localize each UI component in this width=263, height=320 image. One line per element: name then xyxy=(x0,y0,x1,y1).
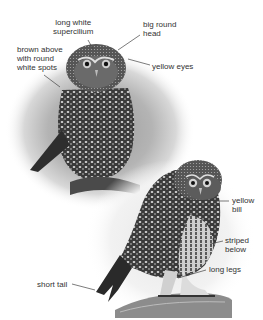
label-upperparts: brown above with round white spots xyxy=(17,45,63,72)
label-eyes: yellow eyes xyxy=(152,62,193,71)
label-tail: short tail xyxy=(37,280,67,289)
label-bill: yellow bill xyxy=(232,196,254,214)
owl-illustration: long white supercilium big round head br… xyxy=(0,0,263,320)
label-supercilium: long white supercilium xyxy=(53,18,93,36)
label-underparts: striped below xyxy=(225,236,249,254)
leader-tail xyxy=(72,284,95,290)
leader-head xyxy=(118,35,140,50)
label-head: big round head xyxy=(143,20,176,38)
label-legs: long legs xyxy=(209,265,241,274)
